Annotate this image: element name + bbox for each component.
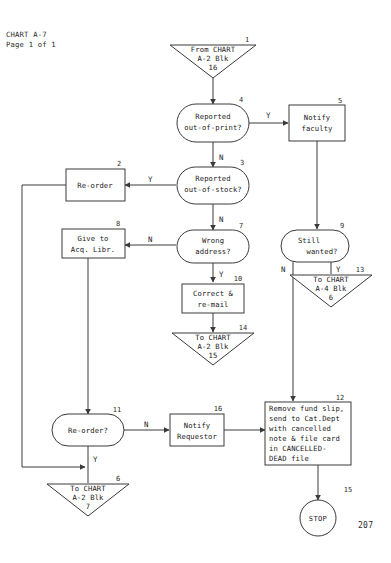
flowchart-canvas: Y N Y N N Y Y N N Y From CHART A-2 Blk 1… <box>0 0 391 563</box>
branch-label-7-yes: Y <box>219 270 224 279</box>
node-4-line-1: Reported <box>195 112 230 121</box>
node-5-line-1: Notify <box>304 113 331 122</box>
node-14-line-3: 15 <box>209 351 218 360</box>
node-12-line-4: note & file card <box>269 434 340 443</box>
node-13-line-2: A-4 Blk <box>316 284 348 293</box>
node-12-line-3: with cancelled <box>269 424 331 433</box>
node-3-line-2: out-of-stock? <box>184 185 242 194</box>
node-11-line-1: Re-order? <box>68 426 108 435</box>
node-2-line-1: Re-order <box>77 181 113 190</box>
node-15-stop-terminator[interactable]: STOP 15 <box>300 486 352 536</box>
node-6-line-1: To CHART <box>70 484 106 493</box>
node-12-line-2: send to Cat.Dept <box>269 414 340 423</box>
node-16-line-2: Requestor <box>177 432 217 441</box>
node-12-line-6: DEAD file <box>269 454 309 463</box>
rectangle-shape <box>170 414 224 446</box>
node-16-notify-requestor[interactable]: Notify Requestor 16 <box>170 405 224 446</box>
node-5-line-2: faculty <box>302 124 334 133</box>
node-16-number: 16 <box>214 405 222 413</box>
node-10-number: 10 <box>234 275 242 283</box>
node-12-line-5: in CANCELLED- <box>269 444 327 453</box>
node-6-line-2: A-2 Blk <box>73 493 105 502</box>
node-14-line-1: To CHART <box>195 333 231 342</box>
node-5-notify-faculty[interactable]: Notify faculty 5 <box>289 97 345 141</box>
node-12-line-1: Remove fund slip, <box>269 404 344 413</box>
node-9-line-2: wanted? <box>307 247 338 256</box>
branch-label-4-yes: Y <box>266 111 271 120</box>
node-7-line-1: Wrong <box>202 236 224 245</box>
node-14-line-2: A-2 Blk <box>198 342 230 351</box>
page-number-label: 207 <box>358 521 373 530</box>
node-5-number: 5 <box>338 97 342 105</box>
node-6-number: 6 <box>116 475 120 483</box>
node-13-line-1: To CHART <box>313 275 349 284</box>
node-8-line-1: Give to <box>78 234 109 243</box>
node-12-number: 12 <box>336 394 344 402</box>
node-6-line-3: 7 <box>86 502 90 511</box>
node-9-line-1: Still <box>298 236 320 245</box>
node-9-number: 9 <box>340 222 344 230</box>
node-1-number: 1 <box>245 36 249 44</box>
node-15-number: 15 <box>344 486 352 494</box>
node-14-number: 14 <box>239 324 247 332</box>
node-8-number: 8 <box>116 220 120 228</box>
node-1-line-1: From CHART <box>191 45 236 54</box>
node-2-number: 2 <box>117 160 121 168</box>
node-12-remove-fund-slip[interactable]: Remove fund slip, send to Cat.Dept with … <box>265 394 351 465</box>
branch-label-11-yes: Y <box>93 455 98 464</box>
node-11-number: 11 <box>113 406 121 414</box>
node-10-line-1: Correct & <box>193 289 233 298</box>
node-13-line-3: 6 <box>329 293 333 302</box>
branch-label-3-yes: Y <box>148 175 153 184</box>
node-3-number: 3 <box>240 159 244 167</box>
node-9-still-wanted[interactable]: Still wanted? 9 <box>281 222 349 262</box>
node-8-give-to-acq-libr[interactable]: Give to Acq. Libr. 8 <box>62 220 125 258</box>
node-1-line-2: A-2 Blk <box>198 54 230 63</box>
node-7-number: 7 <box>239 222 243 230</box>
node-4-line-2: out-of-print? <box>184 123 242 132</box>
node-1-line-3: 16 <box>209 63 218 72</box>
node-7-line-2: address? <box>195 247 230 256</box>
node-15-label: STOP <box>309 515 327 523</box>
node-2-re-order[interactable]: Re-order 2 <box>66 160 125 201</box>
node-10-line-2: re-mail <box>198 300 229 309</box>
node-16-line-1: Notify <box>184 421 211 430</box>
node-13-number: 13 <box>356 266 364 274</box>
branch-label-11-no: N <box>144 420 148 429</box>
node-8-line-2: Acq. Libr. <box>71 245 115 254</box>
branch-label-3-no: N <box>219 215 223 224</box>
node-3-line-1: Reported <box>195 174 230 183</box>
branch-label-9-no: N <box>281 265 285 274</box>
node-4-number: 4 <box>239 96 243 104</box>
node-1-from-chart-a2-blk16[interactable]: From CHART A-2 Blk 16 1 <box>170 36 256 78</box>
branch-label-4-no: N <box>219 153 223 162</box>
flowchart-page: CHART A-7 Page 1 of 1 <box>0 0 391 563</box>
stadium-shape <box>281 230 349 262</box>
rectangle-shape <box>289 105 345 141</box>
branch-label-7-no: N <box>148 235 152 244</box>
branch-label-9-yes: Y <box>336 265 341 274</box>
